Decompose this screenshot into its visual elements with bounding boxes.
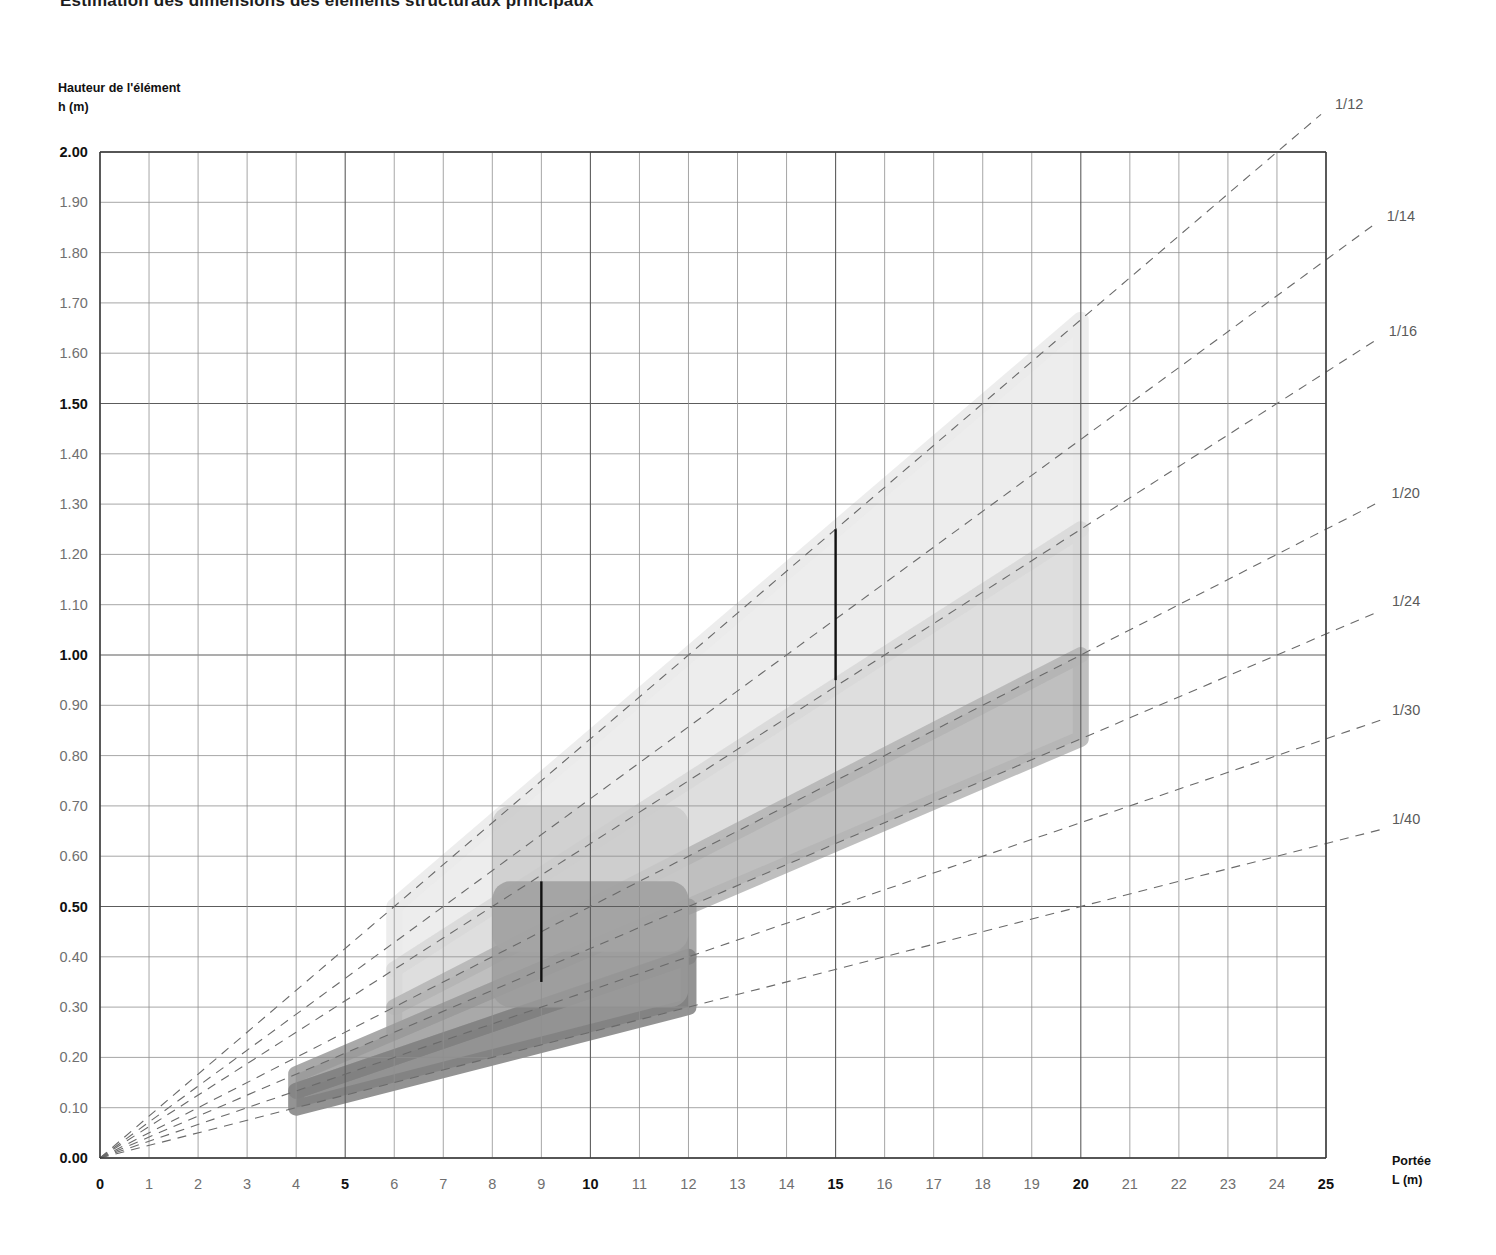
y-tick-label: 1.00 xyxy=(26,647,88,663)
x-tick-label: 21 xyxy=(1110,1176,1150,1192)
y-tick-label: 0.10 xyxy=(26,1100,88,1116)
x-tick-label: 9 xyxy=(521,1176,561,1192)
y-tick-label: 1.40 xyxy=(26,446,88,462)
x-tick-label: 18 xyxy=(963,1176,1003,1192)
y-tick-label: 1.50 xyxy=(26,396,88,412)
ratio-label-1-12: 1/12 xyxy=(1335,96,1363,112)
grid-layer xyxy=(100,152,1326,1158)
x-tick-label: 10 xyxy=(570,1176,610,1192)
ratio-label-1-14: 1/14 xyxy=(1387,208,1415,224)
x-tick-label: 8 xyxy=(472,1176,512,1192)
y-tick-label: 2.00 xyxy=(26,144,88,160)
y-tick-label: 1.90 xyxy=(26,194,88,210)
x-tick-label: 2 xyxy=(178,1176,218,1192)
x-tick-label: 4 xyxy=(276,1176,316,1192)
ratio-label-1-20: 1/20 xyxy=(1392,485,1420,501)
x-tick-label: 22 xyxy=(1159,1176,1199,1192)
y-tick-label: 1.60 xyxy=(26,345,88,361)
y-tick-label: 0.60 xyxy=(26,848,88,864)
y-tick-label: 0.40 xyxy=(26,949,88,965)
y-tick-label: 0.30 xyxy=(26,999,88,1015)
x-tick-label: 24 xyxy=(1257,1176,1297,1192)
y-tick-label: 0.00 xyxy=(26,1150,88,1166)
x-tick-label: 14 xyxy=(767,1176,807,1192)
x-tick-label: 6 xyxy=(374,1176,414,1192)
x-tick-label: 25 xyxy=(1306,1176,1346,1192)
x-tick-label: 16 xyxy=(865,1176,905,1192)
x-tick-label: 11 xyxy=(619,1176,659,1192)
y-tick-label: 1.20 xyxy=(26,546,88,562)
ratio-label-1-24: 1/24 xyxy=(1392,593,1420,609)
x-tick-label: 13 xyxy=(718,1176,758,1192)
y-tick-label: 1.30 xyxy=(26,496,88,512)
x-tick-label: 23 xyxy=(1208,1176,1248,1192)
x-tick-label: 12 xyxy=(668,1176,708,1192)
x-tick-label: 7 xyxy=(423,1176,463,1192)
x-tick-label: 17 xyxy=(914,1176,954,1192)
x-tick-label: 19 xyxy=(1012,1176,1052,1192)
y-tick-label: 0.50 xyxy=(26,899,88,915)
x-tick-label: 5 xyxy=(325,1176,365,1192)
y-tick-label: 0.70 xyxy=(26,798,88,814)
y-tick-label: 1.10 xyxy=(26,597,88,613)
ratio-line-1-14 xyxy=(100,226,1373,1158)
y-tick-label: 1.80 xyxy=(26,245,88,261)
ratio-label-1-30: 1/30 xyxy=(1392,702,1420,718)
chart-page: Estimation des dimensions des éléments s… xyxy=(0,0,1496,1255)
y-tick-label: 1.70 xyxy=(26,295,88,311)
y-tick-label: 0.90 xyxy=(26,697,88,713)
x-tick-label: 20 xyxy=(1061,1176,1101,1192)
x-tick-label: 15 xyxy=(816,1176,856,1192)
ratio-label-1-16: 1/16 xyxy=(1389,323,1417,339)
y-tick-label: 0.20 xyxy=(26,1049,88,1065)
x-tick-label: 1 xyxy=(129,1176,169,1192)
ratio-label-1-40: 1/40 xyxy=(1392,811,1420,827)
x-tick-label: 3 xyxy=(227,1176,267,1192)
chart-plot xyxy=(0,0,1496,1255)
x-tick-label: 0 xyxy=(80,1176,120,1192)
y-tick-label: 0.80 xyxy=(26,748,88,764)
